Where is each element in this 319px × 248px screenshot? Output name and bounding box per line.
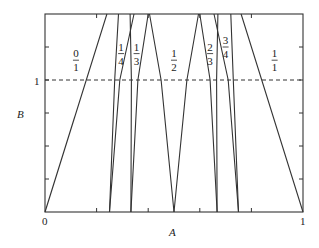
svg-text:1: 1 <box>272 61 278 73</box>
tongue-curves <box>45 14 303 212</box>
region-fraction-label: 01 <box>73 47 79 73</box>
svg-text:1: 1 <box>73 61 79 73</box>
tongue-boundary <box>241 14 303 212</box>
x-origin-label: 0 <box>42 215 48 227</box>
tongue-diagram: 01141312233411 0 1 1 A B <box>0 0 319 248</box>
svg-text:4: 4 <box>118 55 124 67</box>
svg-text:3: 3 <box>134 55 140 67</box>
y-axis-title: B <box>17 108 24 120</box>
region-fraction-label: 14 <box>118 41 124 67</box>
svg-text:3: 3 <box>223 34 229 46</box>
tongue-boundary <box>45 14 107 212</box>
svg-text:0: 0 <box>73 47 79 59</box>
svg-text:4: 4 <box>223 48 229 60</box>
tongue-boundary <box>217 14 218 212</box>
tongue-boundary <box>231 14 239 212</box>
region-fraction-label: 13 <box>134 41 140 67</box>
svg-text:1: 1 <box>118 41 124 53</box>
region-fraction-label: 11 <box>272 47 278 73</box>
tongue-boundary <box>150 14 175 212</box>
svg-text:1: 1 <box>171 47 177 59</box>
region-fraction-label: 12 <box>171 47 177 73</box>
svg-text:3: 3 <box>207 55 213 67</box>
y-one-label: 1 <box>34 75 40 87</box>
tongue-boundary <box>174 14 199 212</box>
x-end-label: 1 <box>300 215 306 227</box>
region-fraction-label: 34 <box>223 34 229 60</box>
svg-text:1: 1 <box>134 41 140 53</box>
x-axis-title: A <box>168 226 176 238</box>
axis-ticks <box>45 14 303 212</box>
region-fraction-label: 23 <box>207 41 213 67</box>
tongue-boundary <box>130 14 131 212</box>
region-labels: 01141312233411 <box>73 34 278 73</box>
plot-frame <box>45 14 303 212</box>
svg-text:2: 2 <box>207 41 213 53</box>
svg-text:2: 2 <box>171 61 177 73</box>
svg-text:1: 1 <box>272 47 278 59</box>
